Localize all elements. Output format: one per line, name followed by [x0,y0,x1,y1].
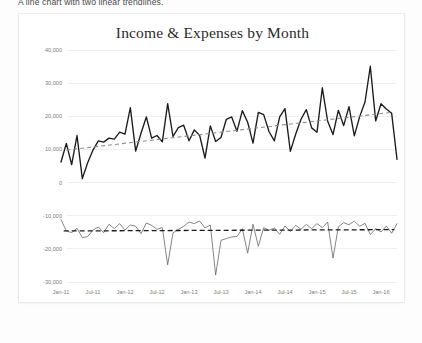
y-axis-tick-label: 0 [59,180,62,186]
x-axis-tick-label: Jul-14 [277,289,292,295]
series-line-expenses [61,220,397,275]
y-axis-tick-label: -30,000 [43,279,62,285]
x-axis-tick-label: Jan-13 [180,289,197,295]
chart-card: Income & Expenses by Month 40,00030,0002… [18,13,405,303]
trendline-expenses [64,230,395,231]
line-chart-plot: 40,00030,00020,00010,0000-10,000-20,000-… [19,14,406,304]
x-axis-tick-label: Jul-12 [149,289,164,295]
x-axis-tick-label: Jul-13 [213,289,228,295]
x-axis-tick-label: Jan-16 [372,289,389,295]
y-axis-tick-label: -10,000 [43,213,62,219]
page-root: A line chart with two linear trendlines.… [0,0,422,343]
y-axis-tick-label: 40,000 [45,47,62,53]
x-axis-tick-label: Jan-12 [116,289,133,295]
x-axis-tick-label: Jan-11 [53,289,70,295]
figure-caption: A line chart with two linear trendlines. [18,0,404,8]
y-axis-tick-label: 30,000 [45,80,62,86]
y-axis-tick-label: 10,000 [45,146,62,152]
x-axis-tick-label: Jan-14 [244,289,261,295]
x-axis-tick-label: Jan-15 [308,289,325,295]
y-axis-tick-label: -20,000 [43,246,62,252]
x-axis-tick-label: Jul-15 [341,289,356,295]
x-axis-tick-label: Jul-11 [86,289,101,295]
y-axis-tick-label: 20,000 [45,113,62,119]
